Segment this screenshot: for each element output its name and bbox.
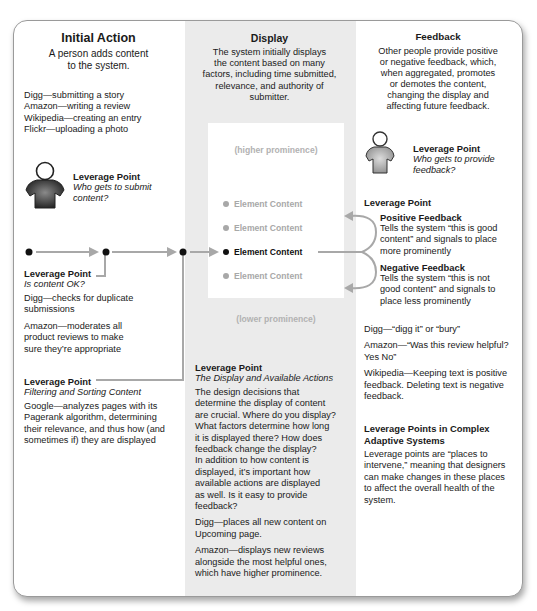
node-dot-icon: [103, 249, 110, 256]
flow-connectors: [0, 0, 537, 611]
arrow-head-icon: [167, 247, 177, 257]
node-dot-icon: [180, 249, 187, 256]
arrow-head-icon: [344, 283, 353, 293]
arrow-head-icon: [89, 247, 99, 257]
arrow-head-icon: [209, 247, 219, 257]
node-dot-icon: [26, 249, 33, 256]
arrow-head-icon: [344, 211, 353, 221]
